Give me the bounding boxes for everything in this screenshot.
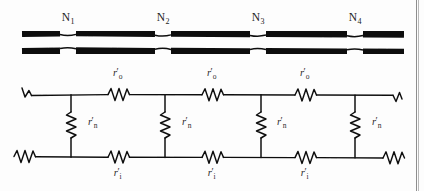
outer-resistor-label-3: r′o — [300, 68, 310, 79]
nodal-branches — [67, 95, 361, 158]
node-symbol: N — [62, 11, 71, 23]
outer-rail — [22, 88, 402, 102]
nodal-branch-2 — [161, 95, 171, 158]
node-subscript: 4 — [357, 17, 361, 26]
resistor-subscript: n — [188, 121, 192, 130]
inner-rail — [14, 151, 405, 164]
node-label-n3: N3 — [252, 12, 265, 24]
nodal-branch-4 — [351, 95, 361, 158]
resistor-subscript: o — [119, 72, 123, 81]
node-symbol: N — [157, 11, 166, 23]
resistor-subscript: i — [307, 172, 309, 181]
page-edge-artifact-secondary — [418, 0, 419, 191]
resistor-subscript: n — [378, 121, 382, 130]
resistor-subscript: n — [94, 121, 98, 130]
node-subscript: 1 — [70, 17, 74, 26]
outer-resistor-label-1: r′o — [113, 68, 123, 79]
nodal-resistor-label-2: r′n — [182, 117, 192, 128]
node-subscript: 2 — [165, 17, 169, 26]
node-label-n4: N4 — [349, 12, 362, 24]
inner-resistor-label-3: r′i — [301, 168, 309, 179]
myelin-sheath-upper — [22, 33, 404, 37]
nodal-branch-1 — [67, 95, 77, 158]
node-label-n2: N2 — [157, 12, 170, 24]
node-symbol: N — [349, 11, 358, 23]
circuit-drawing — [0, 0, 424, 191]
figure-myelinated-fiber-equivalent-circuit: N1 N2 N3 N4 r′o r′o r′o r′n r′n r′n r′n … — [0, 0, 424, 191]
myelin-sheath-lower — [22, 48, 404, 52]
resistor-subscript: i — [120, 172, 122, 181]
inner-resistor-label-2: r′i — [208, 168, 216, 179]
page-edge-artifact — [416, 0, 417, 191]
resistor-subscript: o — [306, 72, 310, 81]
nodal-resistor-label-1: r′n — [88, 117, 98, 128]
node-symbol: N — [252, 11, 261, 23]
nodal-resistor-label-3: r′n — [277, 117, 287, 128]
nodal-branch-3 — [257, 95, 267, 158]
nodal-resistor-label-4: r′n — [372, 117, 382, 128]
outer-resistor-label-2: r′o — [207, 68, 217, 79]
node-label-n1: N1 — [62, 12, 75, 24]
resistor-subscript: i — [214, 172, 216, 181]
node-subscript: 3 — [260, 17, 264, 26]
resistor-subscript: n — [283, 121, 287, 130]
resistor-subscript: o — [213, 72, 217, 81]
inner-resistor-label-1: r′i — [114, 168, 122, 179]
